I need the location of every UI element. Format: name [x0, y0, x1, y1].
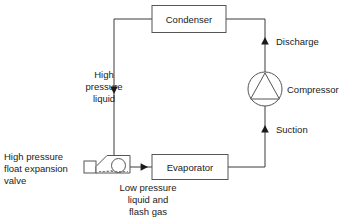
refrigeration-cycle-diagram: Condenser Evaporator Compressor — [0, 0, 343, 224]
condenser-component[interactable]: Condenser — [152, 6, 226, 33]
evaporator-label: Evaporator — [167, 162, 213, 173]
high-pressure-liquid-label-line1: High — [94, 69, 114, 80]
low-pressure-mix-label-line3: flash gas — [129, 206, 167, 217]
arrow-up-discharge — [261, 37, 269, 44]
evaporator-component[interactable]: Evaporator — [152, 155, 228, 180]
diagram-canvas: Condenser Evaporator Compressor — [0, 0, 343, 224]
expansion-valve-label-line1: High pressure — [4, 151, 63, 162]
expansion-valve-component[interactable] — [84, 156, 130, 174]
high-pressure-liquid-label-line2: pressure — [86, 81, 123, 92]
compressor-label: Compressor — [287, 84, 339, 95]
compressor-component[interactable] — [248, 72, 282, 106]
arrow-up-suction — [261, 125, 269, 132]
condenser-label: Condenser — [166, 14, 212, 25]
suction-label: Suction — [276, 124, 308, 135]
low-pressure-mix-label-line1: Low pressure — [119, 182, 176, 193]
high-pressure-liquid-label-line3: liquid — [93, 93, 115, 104]
valve-float-ball-icon — [112, 159, 126, 173]
low-pressure-mix-label-line2: liquid and — [128, 194, 169, 205]
discharge-label: Discharge — [276, 36, 319, 47]
arrow-right-into-evaporator — [141, 163, 148, 171]
pipe-evaporator-to-compressor — [228, 106, 265, 167]
valve-inlet-stub — [84, 161, 96, 173]
expansion-valve-label-line2: float expansion — [4, 163, 68, 174]
expansion-valve-label-line3: valve — [4, 175, 26, 186]
pipe-compressor-to-condenser — [226, 19, 265, 72]
